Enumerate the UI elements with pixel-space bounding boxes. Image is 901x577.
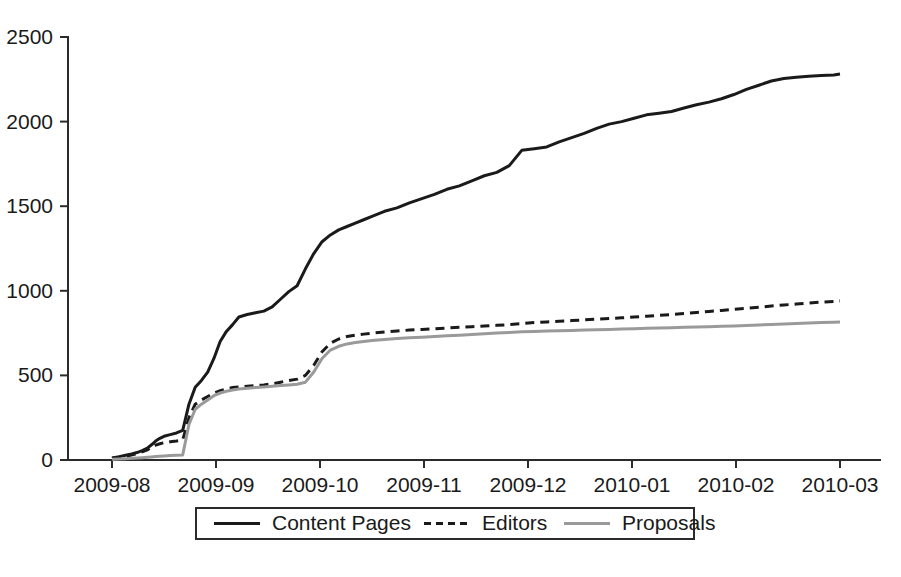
x-axis-tick-label: 2010-02 [697,473,774,496]
chart-legend: Content PagesEditorsProposals [196,508,715,539]
x-axis-tick-label: 2009-08 [73,473,150,496]
x-axis-tick-label: 2009-09 [177,473,254,496]
legend-label-content-pages: Content Pages [272,511,411,534]
y-axis-tick-label: 2000 [6,110,53,133]
y-axis-tick-label: 1500 [6,194,53,217]
x-axis-tick-label: 2009-12 [489,473,566,496]
x-axis-tick-label: 2009-10 [281,473,358,496]
y-axis-tick-label: 2500 [6,25,53,48]
x-axis-tick-label: 2009-11 [386,473,462,496]
line-chart-figure: 05001000150020002500 2009-082009-092009-… [0,0,901,577]
y-axis-tick-label: 500 [18,363,53,386]
legend-label-proposals: Proposals [622,511,715,534]
legend-border [196,508,694,539]
y-axis-tick-label: 1000 [6,279,53,302]
y-axis-tick-label: 0 [41,448,53,471]
chart-canvas: 05001000150020002500 2009-082009-092009-… [0,0,901,577]
x-axis-tick-label: 2010-03 [801,473,878,496]
x-axis-tick-label: 2010-01 [593,473,670,496]
legend-label-editors: Editors [482,511,547,534]
